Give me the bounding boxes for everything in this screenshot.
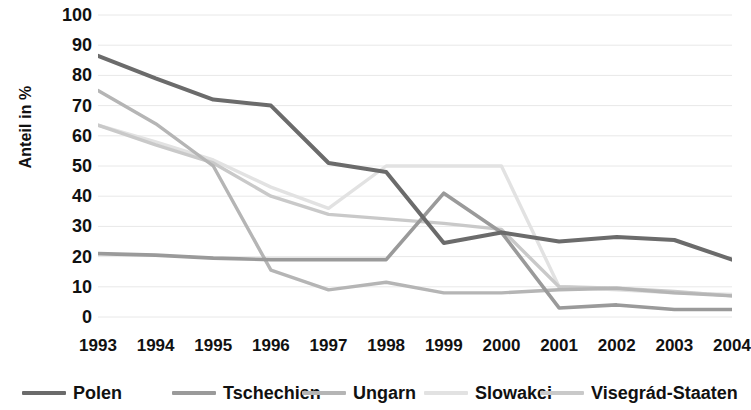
legend-item-tschechien[interactable]: Tschechien [172, 384, 321, 402]
x-axis-tick-1997: 1997 [310, 336, 348, 356]
x-axis-tick-2000: 2000 [483, 336, 521, 356]
y-axis-tick-0: 0 [46, 308, 92, 326]
x-axis-tick-2002: 2002 [598, 336, 636, 356]
legend-label: Ungarn [353, 384, 416, 402]
x-axis-tick-labels: 1993199419951996199719981999200020012002… [0, 336, 738, 366]
y-axis-tick-80: 80 [46, 66, 92, 84]
legend-swatch-icon [22, 391, 66, 395]
legend-item-ungarn[interactable]: Ungarn [302, 384, 416, 402]
x-axis-tick-1996: 1996 [252, 336, 290, 356]
legend-label: Visegrád-Staaten [591, 384, 738, 402]
y-axis-tick-50: 50 [46, 157, 92, 175]
legend-item-slowakei[interactable]: Slowakei [424, 384, 552, 402]
y-axis-tick-60: 60 [46, 127, 92, 145]
y-axis-tick-40: 40 [46, 187, 92, 205]
legend-label: Polen [73, 384, 122, 402]
legend-item-visegr-d-staaten[interactable]: Visegrád-Staaten [540, 384, 738, 402]
x-axis-tick-1993: 1993 [79, 336, 117, 356]
y-axis-tick-90: 90 [46, 36, 92, 54]
x-axis-tick-2003: 2003 [655, 336, 693, 356]
x-axis-tick-2001: 2001 [540, 336, 578, 356]
y-axis-tick-20: 20 [46, 248, 92, 266]
legend-item-polen[interactable]: Polen [22, 384, 122, 402]
y-axis-tick-10: 10 [46, 278, 92, 296]
x-axis-tick-2004: 2004 [713, 336, 751, 356]
legend-swatch-icon [302, 391, 346, 395]
x-axis-tick-1995: 1995 [194, 336, 232, 356]
y-axis-tick-30: 30 [46, 217, 92, 235]
plot-area [98, 10, 732, 322]
legend-swatch-icon [172, 391, 216, 395]
x-axis-tick-1998: 1998 [367, 336, 405, 356]
legend-swatch-icon [540, 391, 584, 395]
chart-legend: PolenTschechienUngarnSlowakeiVisegrád-St… [0, 378, 738, 410]
y-axis-tick-70: 70 [46, 97, 92, 115]
legend-swatch-icon [424, 391, 468, 395]
y-axis-tick-100: 100 [46, 6, 92, 24]
series-line-ungarn [98, 91, 732, 296]
plot-svg [98, 10, 732, 322]
x-axis-tick-1999: 1999 [425, 336, 463, 356]
series-lines [98, 56, 732, 310]
x-axis-tick-1994: 1994 [137, 336, 175, 356]
